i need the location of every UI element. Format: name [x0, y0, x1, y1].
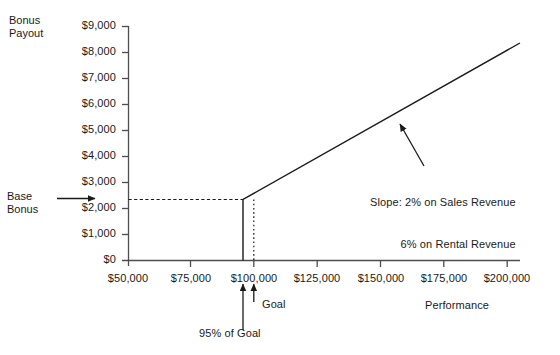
y-tick-label-8000: $8,000: [52, 45, 116, 58]
base-bonus-line1: Base: [7, 190, 38, 203]
slope-note-arrow: [400, 124, 424, 166]
y-axis-title-line1: Bonus: [9, 14, 43, 27]
y-axis-title: Bonus Payout: [9, 14, 43, 40]
goal-label: Goal: [262, 298, 286, 311]
y-axis-ticks: [122, 27, 129, 235]
base-bonus-annotation: Base Bonus: [7, 190, 38, 216]
base-bonus-line2: Bonus: [7, 203, 38, 216]
y-axis-title-line2: Payout: [9, 27, 43, 40]
y-tick-label-9000: $9,000: [52, 19, 116, 32]
threshold-label: 95% of Goal: [199, 327, 261, 340]
x-axis-title: Performance: [425, 299, 489, 312]
y-tick-label-2000: $2,000: [52, 201, 116, 214]
slope-annotation-line1: Slope: 2% on Sales Revenue: [370, 195, 516, 209]
slope-annotation-line2: 6% on Rental Revenue: [370, 237, 516, 251]
y-tick-label-5000: $5,000: [52, 123, 116, 136]
y-tick-label-7000: $7,000: [52, 71, 116, 84]
y-tick-label-3000: $3,000: [52, 175, 116, 188]
bonus-payout-chart: Bonus Payout $9,000 $8,000 $7,000 $6,000…: [0, 0, 560, 355]
x-tick-label-125000: $125,000: [280, 272, 354, 285]
y-tick-label-0: $0: [52, 253, 116, 266]
y-tick-label-6000: $6,000: [52, 97, 116, 110]
y-tick-label-4000: $4,000: [52, 149, 116, 162]
slope-annotation: Slope: 2% on Sales Revenue 6% on Rental …: [370, 167, 516, 279]
y-tick-label-1000: $1,000: [52, 227, 116, 240]
